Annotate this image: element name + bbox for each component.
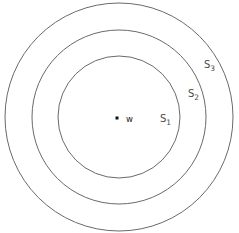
circle-label-s2-subscript: 2: [194, 93, 199, 102]
circle-label-s2: S2: [188, 88, 199, 102]
concentric-circles-figure: w S1 S2 S3: [0, 0, 239, 233]
circle-s3: [5, 3, 233, 231]
diagram-canvas: w S1 S2 S3: [0, 0, 239, 233]
circle-label-s1: S1: [160, 113, 171, 127]
circle-label-s1-subscript: 1: [166, 118, 171, 127]
circle-label-s3-subscript: 3: [210, 64, 215, 73]
center-point-label: w: [126, 114, 133, 124]
center-point-label-text: w: [126, 114, 133, 124]
center-point-marker: [116, 117, 119, 120]
circle-label-s3: S3: [204, 59, 215, 73]
